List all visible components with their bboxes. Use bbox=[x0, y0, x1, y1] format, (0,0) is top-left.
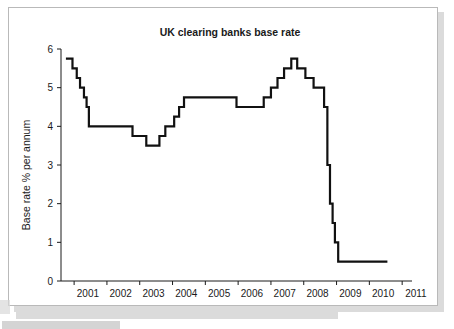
y-tick-label: 2 bbox=[47, 198, 53, 209]
x-axis-ticks: 2001200220032004200520062007200820092010… bbox=[74, 281, 427, 299]
base-rate-series-line bbox=[66, 59, 387, 262]
y-tick-label: 4 bbox=[47, 121, 53, 132]
y-tick-label: 3 bbox=[47, 160, 53, 171]
y-tick-label: 6 bbox=[47, 44, 53, 55]
x-tick-label: 2005 bbox=[208, 288, 231, 299]
y-tick-label: 0 bbox=[47, 276, 53, 287]
x-tick-label: 2007 bbox=[274, 288, 297, 299]
scan-artifact-left-edge bbox=[0, 300, 10, 314]
x-tick-label: 2003 bbox=[142, 288, 165, 299]
y-tick-label: 1 bbox=[47, 237, 53, 248]
y-axis-title: Base rate % per annum bbox=[20, 120, 32, 231]
x-tick-label: 2008 bbox=[306, 288, 329, 299]
scan-artifact-strip bbox=[16, 312, 338, 319]
x-tick-label: 2006 bbox=[241, 288, 264, 299]
figure-page: UK clearing banks base rate Base rate % … bbox=[0, 0, 454, 329]
y-tick-label: 5 bbox=[47, 82, 53, 93]
y-axis-ticks: 0123456 bbox=[47, 44, 61, 287]
x-tick-label: 2004 bbox=[175, 288, 198, 299]
x-tick-label: 2010 bbox=[372, 288, 395, 299]
chart-title: UK clearing banks base rate bbox=[160, 26, 301, 38]
x-tick-label: 2002 bbox=[110, 288, 133, 299]
x-tick-label: 2009 bbox=[339, 288, 362, 299]
base-rate-line-chart: UK clearing banks base rate Base rate % … bbox=[8, 7, 438, 306]
x-tick-label: 2011 bbox=[405, 288, 427, 299]
x-tick-label: 2001 bbox=[77, 288, 100, 299]
scan-artifact-strip-lower bbox=[2, 321, 120, 329]
